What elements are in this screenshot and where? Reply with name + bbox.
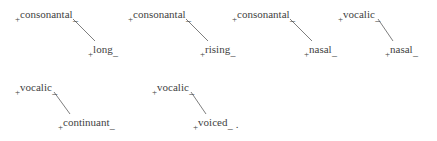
trailing-underscore: _ bbox=[375, 11, 380, 22]
feature-label-parent-consonantal: +consonantal_ bbox=[128, 9, 191, 24]
feature-label-child-nasal: +nasal_ bbox=[304, 44, 337, 59]
connector-line-group-4 bbox=[378, 19, 393, 41]
feature-label-parent-vocalic: +vocalic_ bbox=[338, 9, 380, 24]
feature-label-parent-consonantal: +consonantal_ bbox=[232, 9, 295, 24]
feature-name: rising bbox=[205, 43, 230, 55]
trailing-underscore: _ bbox=[332, 46, 337, 57]
feature-label-child-rising: +rising_ bbox=[200, 44, 235, 59]
feature-name: continuant bbox=[63, 116, 109, 128]
trailing-underscore: _ bbox=[189, 84, 194, 95]
feature-name: consonantal bbox=[237, 8, 290, 20]
trailing-underscore: _ bbox=[73, 11, 78, 22]
feature-label-child-voiced: +voiced_. bbox=[193, 117, 238, 132]
feature-label-child-continuant: +continuant_ bbox=[58, 117, 115, 132]
trailing-underscore: _ bbox=[113, 46, 118, 57]
feature-name: nasal bbox=[309, 43, 332, 55]
trailing-underscore: _ bbox=[230, 46, 235, 57]
feature-tree-diagram: +consonantal_+long_+consonantal_+rising_… bbox=[0, 0, 437, 141]
trailing-underscore: _ bbox=[290, 11, 295, 22]
feature-name: long bbox=[93, 43, 113, 55]
feature-label-parent-vocalic: +vocalic_ bbox=[152, 82, 194, 97]
feature-label-child-nasal: +nasal_ bbox=[385, 44, 418, 59]
feature-label-child-long: +long_ bbox=[88, 44, 118, 59]
feature-label-parent-consonantal: +consonantal_ bbox=[15, 9, 78, 24]
feature-name: vocalic bbox=[157, 81, 189, 93]
trailing-underscore: _ bbox=[413, 46, 418, 57]
feature-name: consonantal bbox=[20, 8, 73, 20]
feature-label-parent-vocalic: +vocalic_ bbox=[15, 82, 57, 97]
feature-name: voiced bbox=[198, 116, 227, 128]
trailing-underscore: _ bbox=[186, 11, 191, 22]
trailing-underscore: _ bbox=[52, 84, 57, 95]
feature-name: vocalic bbox=[20, 81, 52, 93]
feature-name: nasal bbox=[390, 43, 413, 55]
sentence-period: . bbox=[236, 118, 239, 130]
trailing-underscore: _ bbox=[110, 119, 115, 130]
feature-name: consonantal bbox=[133, 8, 186, 20]
feature-name: vocalic bbox=[343, 8, 375, 20]
trailing-underscore: _ bbox=[228, 119, 233, 130]
